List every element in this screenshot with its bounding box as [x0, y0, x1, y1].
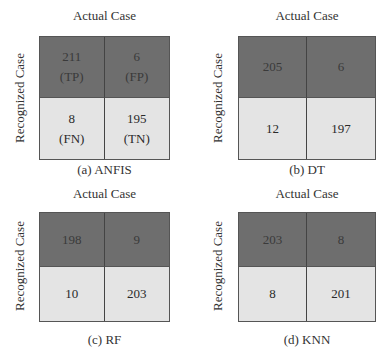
- cell-tp: 211 (TP): [40, 37, 105, 98]
- cell-tag: (FP): [125, 67, 148, 87]
- column-axis-title: Actual Case: [238, 186, 376, 202]
- cell-value: 9: [134, 230, 141, 250]
- cell-tp: 205: [239, 37, 307, 98]
- cell-tn: 197: [307, 98, 375, 159]
- cell-value: 6: [338, 57, 345, 77]
- cell-value: 203: [263, 230, 283, 250]
- cell-value: 205: [263, 57, 283, 77]
- cell-tn: 203: [105, 267, 170, 321]
- cell-tag: (TP): [60, 67, 84, 87]
- cell-value: 201: [331, 284, 351, 304]
- cell-value: 8: [69, 109, 76, 129]
- matrix-grid: 198 9 10 203: [39, 212, 170, 322]
- cell-tn: 195 (TN): [105, 98, 170, 159]
- cell-value: 10: [65, 284, 78, 304]
- cell-tn: 201: [307, 267, 375, 321]
- cell-value: 6: [134, 47, 141, 67]
- column-axis-title: Actual Case: [39, 186, 170, 202]
- cell-tp: 203: [239, 213, 307, 267]
- column-axis-title: Actual Case: [39, 8, 170, 24]
- panel-caption: (b) DT: [238, 162, 376, 178]
- cell-fp: 6 (FP): [105, 37, 170, 98]
- cell-value: 8: [338, 230, 345, 250]
- cell-fn: 10: [40, 267, 105, 321]
- cell-value: 197: [331, 119, 351, 139]
- cell-value: 12: [266, 119, 279, 139]
- cell-value: 198: [62, 230, 82, 250]
- cell-value: 195: [127, 109, 147, 129]
- matrix-grid: 211 (TP) 6 (FP) 8 (FN) 195 (TN): [39, 36, 170, 160]
- cell-fn: 8 (FN): [40, 98, 105, 159]
- cell-fp: 8: [307, 213, 375, 267]
- cell-fn: 8: [239, 267, 307, 321]
- cell-value: 211: [62, 47, 81, 67]
- panel-caption: (a) ANFIS: [39, 162, 170, 178]
- cell-fp: 6: [307, 37, 375, 98]
- cell-fn: 12: [239, 98, 307, 159]
- cell-tag: (FN): [59, 129, 84, 149]
- cell-value: 203: [127, 284, 147, 304]
- cell-value: 8: [269, 284, 276, 304]
- row-axis-title: Recognized Case: [210, 211, 226, 321]
- row-axis-title: Recognized Case: [12, 211, 28, 321]
- column-axis-title: Actual Case: [238, 8, 376, 24]
- cell-tag: (TN): [124, 129, 150, 149]
- row-axis-title: Recognized Case: [12, 43, 28, 153]
- cell-fp: 9: [105, 213, 170, 267]
- matrix-grid: 205 6 12 197: [238, 36, 376, 160]
- panel-caption: (d) KNN: [238, 332, 376, 348]
- row-axis-title: Recognized Case: [210, 43, 226, 153]
- panel-caption: (c) RF: [39, 332, 170, 348]
- matrix-grid: 203 8 8 201: [238, 212, 376, 322]
- cell-tp: 198: [40, 213, 105, 267]
